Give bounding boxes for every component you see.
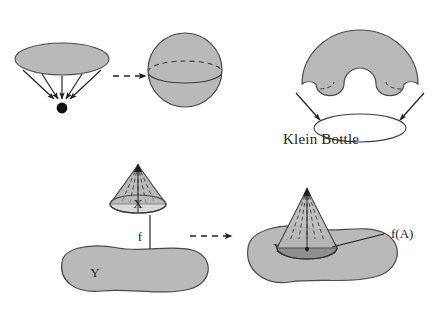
cone-overlay-shape (277, 187, 337, 259)
klein-bottle-label: Klein Bottle (283, 131, 359, 148)
panel-disk-to-sphere (15, 33, 222, 113)
collapse-point-dot (57, 103, 68, 114)
blob-y-left-shape (62, 246, 209, 292)
panel-map-f: X f Y (62, 163, 232, 292)
source-disk-shape (15, 43, 109, 75)
label-f-of-a: f(A) (391, 226, 413, 241)
topology-figure: X f Y Y f(A) (0, 0, 438, 309)
label-f: f (138, 229, 143, 244)
panel-klein-bottle (296, 30, 424, 142)
label-y-left: Y (90, 265, 100, 280)
result-sphere-shape (148, 33, 222, 107)
klein-dome-shape (302, 30, 418, 96)
panel-image-fA: Y f(A) (248, 187, 414, 283)
label-x: X (133, 196, 143, 211)
